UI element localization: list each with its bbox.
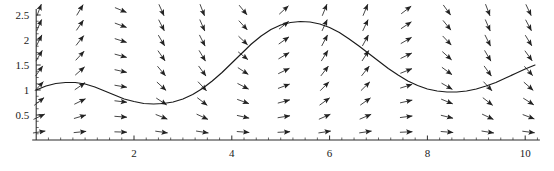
slope-field-plot: 2468100.511.522.5 bbox=[0, 0, 554, 171]
plot-background bbox=[0, 0, 554, 171]
plot-canvas: 2468100.511.522.5 bbox=[0, 0, 554, 171]
y-tick-label: 0.5 bbox=[15, 109, 29, 121]
y-tick-label: 1.5 bbox=[15, 59, 29, 71]
y-tick-label: 1 bbox=[24, 84, 30, 96]
field-arrow bbox=[400, 132, 412, 133]
x-tick-label: 4 bbox=[229, 147, 235, 159]
x-tick-label: 2 bbox=[131, 147, 137, 159]
x-tick-label: 8 bbox=[425, 147, 431, 159]
x-tick-label: 10 bbox=[520, 147, 532, 159]
y-tick-label: 2.5 bbox=[15, 9, 29, 21]
y-tick-label: 2 bbox=[24, 34, 30, 46]
x-tick-label: 6 bbox=[327, 147, 333, 159]
